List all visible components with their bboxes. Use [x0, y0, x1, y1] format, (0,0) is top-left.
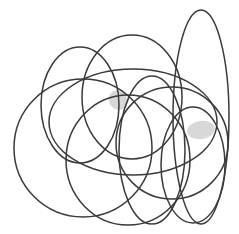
- ellipses-figure: [0, 0, 239, 234]
- figure-canvas: [0, 0, 239, 234]
